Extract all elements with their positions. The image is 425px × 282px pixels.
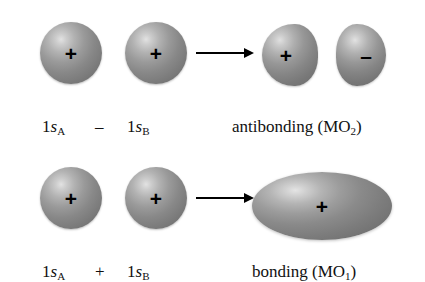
antibonding-mo-right-lobe: – bbox=[336, 24, 386, 86]
antibonding-left-orbital-sign: + bbox=[40, 43, 102, 64]
bonding-left-atomic-orbital: + bbox=[40, 167, 102, 229]
antibonding-right-orbital-sign: + bbox=[125, 43, 187, 64]
antibonding-mo-left-lobe: + bbox=[262, 24, 318, 86]
bonding-result-label: bonding (MO1) bbox=[252, 263, 356, 282]
antibonding-result-label-text: antibonding (MO bbox=[232, 117, 351, 136]
bonding-right-label-prefix: 1 bbox=[127, 262, 136, 281]
antibonding-left-orbital-label: 1sA bbox=[42, 118, 65, 137]
antibonding-row: + – + + – 1sA 1sB antibonding (MO2) bbox=[0, 0, 425, 145]
bonding-right-atomic-orbital: + bbox=[125, 167, 187, 229]
bonding-left-orbital-label: 1sA bbox=[42, 263, 65, 282]
bonding-mo-sign: + bbox=[252, 196, 392, 217]
antibonding-result-label: antibonding (MO2) bbox=[232, 118, 362, 137]
bonding-mo-orbital: + bbox=[252, 172, 392, 240]
bonding-left-label-subscript: A bbox=[57, 270, 65, 282]
bonding-arrow-icon bbox=[196, 193, 254, 203]
antibonding-operator: – bbox=[95, 118, 104, 135]
bonding-right-orbital-label: 1sB bbox=[127, 263, 149, 282]
bonding-right-label-subscript: B bbox=[142, 270, 149, 282]
antibonding-arrow-icon bbox=[196, 48, 254, 58]
antibonding-right-atomic-orbital: + bbox=[125, 22, 187, 84]
bonding-right-orbital-sign: + bbox=[125, 188, 187, 209]
antibonding-left-label-subscript: A bbox=[57, 125, 65, 137]
bonding-left-label-prefix: 1 bbox=[42, 262, 51, 281]
antibonding-left-atomic-orbital: + bbox=[40, 22, 102, 84]
bonding-left-orbital-sign: + bbox=[40, 188, 102, 209]
antibonding-mo-right-lobe-sign: – bbox=[341, 45, 391, 66]
antibonding-mo-left-lobe-sign: + bbox=[258, 45, 314, 66]
antibonding-right-label-prefix: 1 bbox=[127, 117, 136, 136]
bonding-result-label-text: bonding (MO bbox=[252, 262, 345, 281]
antibonding-right-label-subscript: B bbox=[142, 125, 149, 137]
antibonding-result-label-suffix: ) bbox=[356, 117, 362, 136]
bonding-operator: + bbox=[95, 263, 105, 280]
bonding-result-label-suffix: ) bbox=[351, 262, 357, 281]
bonding-row: + + + + 1sA 1sB bonding (MO1) bbox=[0, 145, 425, 279]
antibonding-right-orbital-label: 1sB bbox=[127, 118, 149, 137]
antibonding-left-label-prefix: 1 bbox=[42, 117, 51, 136]
